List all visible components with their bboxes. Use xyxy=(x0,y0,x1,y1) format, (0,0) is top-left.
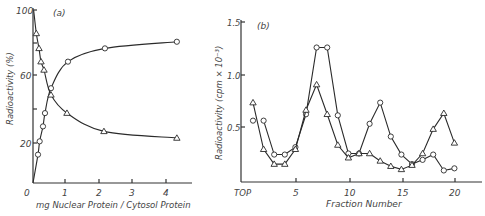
b-xlabel: Fraction Number xyxy=(326,199,403,209)
a-ylabel: Radioactivity (%) xyxy=(5,52,15,125)
circle-marker xyxy=(65,59,70,64)
triangle-marker xyxy=(303,107,309,112)
circle-marker xyxy=(174,39,179,44)
triangle-marker xyxy=(451,140,457,145)
b-panel-label: (b) xyxy=(257,21,270,31)
triangle-marker xyxy=(324,111,330,116)
a-xtick-0: 0 xyxy=(24,188,30,198)
a-ytick-20: 20 xyxy=(20,139,32,149)
circle-marker xyxy=(261,118,266,123)
b-xtick-10: 10 xyxy=(344,188,356,198)
a-xtick-4: 4 xyxy=(163,188,169,198)
b-ytick-1.0: 1.0 xyxy=(227,71,241,81)
b-ylabel: Radioactivity (cpm × 10⁻³) xyxy=(214,46,224,160)
triangle-marker xyxy=(64,110,70,115)
circle-marker xyxy=(250,118,255,123)
triangle-marker xyxy=(377,158,383,163)
triangle-marker xyxy=(388,163,394,168)
b-ytick-0.5: 0.5 xyxy=(227,123,241,133)
triangle-marker xyxy=(36,45,42,50)
circle-marker xyxy=(35,152,40,157)
triangle-marker xyxy=(441,110,447,115)
triangle-marker xyxy=(250,99,256,104)
panel-a-plot xyxy=(33,10,180,183)
b-ytick-1.5: 1.5 xyxy=(227,18,241,28)
a-xtick-3: 3 xyxy=(129,188,135,198)
circle-marker xyxy=(42,111,47,116)
panel-b-axes xyxy=(241,20,482,182)
circle-marker xyxy=(40,124,45,129)
circle-marker xyxy=(388,134,393,139)
circles-line xyxy=(33,42,177,183)
panel-b-plot xyxy=(250,45,458,173)
triangle-marker xyxy=(335,142,341,147)
triangle-marker xyxy=(313,81,319,86)
b-xtick-15: 15 xyxy=(397,188,409,198)
chart-canvas: 100 60 20 0 1 2 3 4 (a) mg Nuclear Prote… xyxy=(0,0,485,216)
a-xtick-2: 2 xyxy=(96,188,102,198)
circle-marker xyxy=(325,45,330,50)
circle-marker xyxy=(431,152,436,157)
circle-marker xyxy=(399,152,404,157)
triangle-marker xyxy=(260,146,266,151)
circle-marker xyxy=(272,152,277,157)
triangle-marker xyxy=(419,150,425,155)
circle-marker xyxy=(314,45,319,50)
b-xtick-top: TOP xyxy=(234,188,252,198)
circle-marker xyxy=(452,166,457,171)
a-xtick-1: 1 xyxy=(62,188,68,198)
triangle-marker xyxy=(41,67,47,72)
b-xtick-20: 20 xyxy=(449,188,461,198)
a-panel-label: (a) xyxy=(53,8,66,18)
triangle-marker xyxy=(38,58,44,63)
circle-marker xyxy=(102,46,107,51)
figure: 100 60 20 0 1 2 3 4 (a) mg Nuclear Prote… xyxy=(0,0,485,216)
b-xtick-5: 5 xyxy=(293,188,299,198)
circle-marker xyxy=(378,100,383,105)
circle-marker xyxy=(282,152,287,157)
circle-marker xyxy=(37,139,42,144)
circle-marker xyxy=(441,168,446,173)
triangles-line xyxy=(34,10,177,138)
a-ytick-100: 100 xyxy=(16,6,33,16)
circle-marker xyxy=(335,113,340,118)
panel-a-axes xyxy=(33,8,192,183)
a-ytick-60: 60 xyxy=(20,71,32,81)
circle-marker xyxy=(367,121,372,126)
triangle-marker xyxy=(33,30,39,35)
circle-marker xyxy=(420,157,425,162)
a-xlabel: mg Nuclear Protein / Cytosol Protein xyxy=(36,200,191,210)
